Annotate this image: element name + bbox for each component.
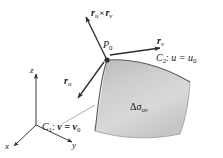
tangent-u-label: ru (64, 76, 71, 88)
tangent-u-sub: u (68, 80, 71, 87)
curve-c1-equation: v = v (57, 121, 77, 132)
curve-c2-name: C (156, 52, 163, 63)
point-p0-marker (104, 57, 109, 62)
curve-c1-name: C (42, 121, 49, 132)
normal-vector-label: ru×rv (91, 8, 112, 20)
tangent-v-sub: v (161, 40, 164, 47)
curve-c1-separator: : (52, 121, 55, 132)
normal-vector-sub2: v (109, 12, 112, 19)
patch-area-sub: uv (141, 106, 147, 113)
point-p0-label: P0 (103, 40, 113, 52)
curve-c2-eq-sub: 0 (193, 57, 196, 64)
patch-area-label: Δσuv (130, 102, 148, 114)
curve-c1-eq-sub: 0 (77, 126, 80, 133)
x-axis (14, 125, 36, 146)
tangent-v-arrow (110, 48, 160, 55)
x-axis-label: x (5, 142, 9, 151)
parametric-surface-figure: ru×rv P0 rv ru C2: u = u0 C1: v = v0 Δσu… (0, 0, 223, 158)
surface-patch (95, 60, 190, 138)
figure-vector-graphics (0, 0, 223, 158)
curve-c1-label: C1: v = v0 (42, 122, 80, 134)
tangent-v-label: rv (157, 36, 164, 48)
point-p0-sub: 0 (109, 44, 112, 51)
curve-c2-label: C2: u = u0 (156, 53, 197, 65)
curve-c2-equation: u = u (171, 52, 193, 63)
y-axis-label: y (72, 141, 76, 150)
curve-c2-separator: : (166, 52, 169, 63)
z-axis-label: z (30, 66, 34, 75)
